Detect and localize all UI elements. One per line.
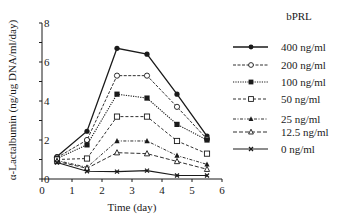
series-line — [57, 153, 207, 170]
legend-title: bPRL — [286, 10, 312, 22]
open-square-marker-icon — [249, 97, 254, 102]
open-square-marker-icon — [114, 114, 119, 119]
filled-square-marker-icon — [144, 95, 149, 100]
filled-square-marker-icon — [84, 142, 89, 147]
filled-circle-marker-icon — [174, 92, 179, 97]
filled-square-marker-icon — [204, 137, 209, 142]
legend-label: 25 ng/ml — [281, 113, 320, 125]
y-axis-label: α-Lactalbumin (ng/ug DNA/ml/day) — [6, 19, 19, 180]
legend-label: 100 ng/ml — [281, 76, 326, 88]
x-tick-label: 2 — [99, 184, 105, 196]
y-tick-label: 2 — [44, 134, 50, 146]
open-square-marker-icon — [204, 151, 209, 156]
series-50-ng-ml — [54, 114, 209, 162]
open-square-marker-icon — [144, 114, 149, 119]
legend-label: 400 ng/ml — [281, 41, 326, 53]
filled-square-marker-icon — [114, 92, 119, 97]
legend-label: 0 ng/ml — [281, 143, 315, 155]
open-triangle-marker-icon — [249, 129, 254, 134]
filled-circle-marker-icon — [249, 45, 254, 50]
x-axis-label: Time (day) — [108, 201, 157, 214]
filled-circle-marker-icon — [84, 129, 89, 134]
series-line — [57, 48, 207, 156]
open-square-marker-icon — [174, 138, 179, 143]
legend-item: 12.5 ng/ml — [233, 126, 329, 138]
series-100-ng-ml — [54, 92, 209, 162]
filled-square-marker-icon — [174, 122, 179, 127]
x-tick-label: 1 — [69, 184, 75, 196]
series-layer — [54, 46, 209, 178]
x-tick-label: 3 — [129, 184, 135, 196]
line-chart: 024680123456 400 ng/ml200 ng/ml100 ng/ml… — [0, 0, 338, 220]
x-tick-label: 5 — [189, 184, 195, 196]
series-25-ng-ml — [54, 138, 209, 170]
y-tick-label: 6 — [44, 56, 50, 68]
open-circle-marker-icon — [144, 73, 149, 78]
legend-item: 50 ng/ml — [233, 93, 320, 105]
filled-circle-marker-icon — [144, 52, 149, 57]
filled-square-marker-icon — [249, 80, 254, 85]
open-triangle-marker-icon — [204, 166, 209, 171]
legend-label: 12.5 ng/ml — [281, 126, 329, 138]
axes: 024680123456 — [39, 17, 225, 196]
legend-label: 200 ng/ml — [281, 59, 326, 71]
open-circle-marker-icon — [114, 73, 119, 78]
x-tick-label: 4 — [159, 184, 165, 196]
series-400-ng-ml — [54, 46, 209, 159]
y-tick-label: 4 — [44, 95, 50, 107]
legend-item: 25 ng/ml — [233, 113, 320, 125]
legend-item: 100 ng/ml — [233, 76, 326, 88]
legend-item: 0 ng/ml — [233, 143, 315, 155]
filled-circle-marker-icon — [114, 46, 119, 51]
open-square-marker-icon — [84, 156, 89, 161]
x-tick-label: 6 — [219, 184, 225, 196]
open-triangle-marker-icon — [114, 150, 119, 155]
legend-label: 50 ng/ml — [281, 93, 320, 105]
legend-item: 200 ng/ml — [233, 59, 326, 71]
series-line — [57, 162, 207, 175]
open-circle-marker-icon — [249, 63, 254, 68]
series-0-ng-ml — [55, 160, 209, 177]
legend-item: 400 ng/ml — [233, 41, 326, 53]
y-tick-label: 8 — [44, 17, 50, 29]
y-tick-label: 0 — [44, 173, 50, 185]
open-circle-marker-icon — [174, 104, 179, 109]
x-tick-label: 0 — [39, 184, 45, 196]
legend: 400 ng/ml200 ng/ml100 ng/ml50 ng/ml25 ng… — [233, 41, 329, 155]
filled-triangle-marker-icon — [174, 153, 179, 158]
